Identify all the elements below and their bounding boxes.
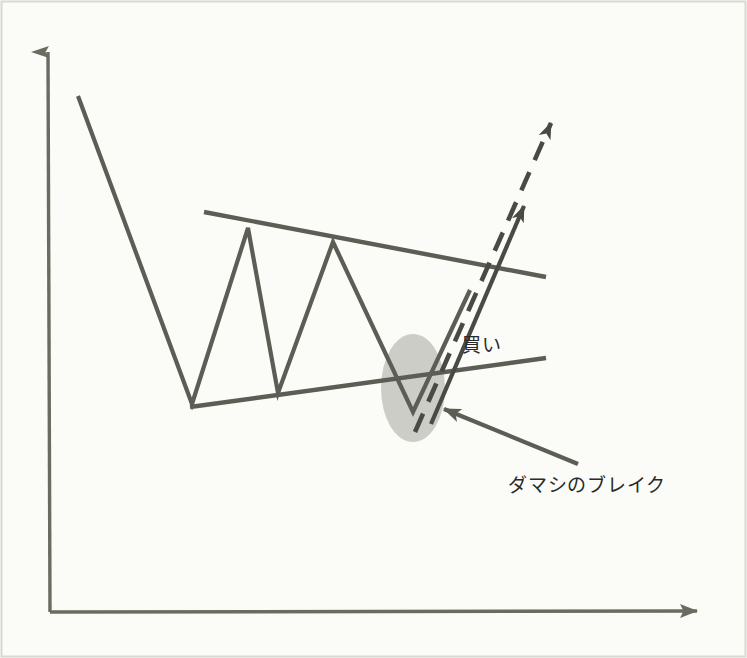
- chart-figure: 買い ダマシのブレイク: [0, 0, 747, 658]
- breakout-arrow-solid: [431, 206, 524, 424]
- y-axis: [48, 52, 50, 612]
- x-axis: [50, 611, 697, 612]
- chart-canvas: [0, 0, 747, 658]
- projected-breakout-arrow-dashed: [415, 123, 551, 432]
- false-break-pointer-arrow: [444, 409, 578, 464]
- lower-support-trendline: [190, 358, 546, 407]
- false-break-annotation-label: ダマシのブレイク: [508, 470, 666, 497]
- buy-annotation-label: 買い: [462, 330, 502, 357]
